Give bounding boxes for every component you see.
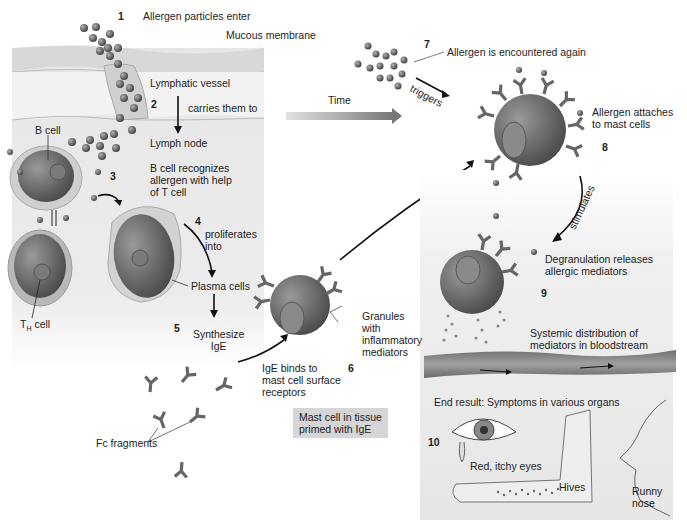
symptom-nose-label: Runny nose <box>632 485 662 509</box>
step-5-text: Synthesize IgE <box>193 328 244 352</box>
step-6-number: 6 <box>348 362 354 374</box>
b-cell-label: B cell <box>35 124 61 136</box>
mast-cell-primed <box>254 266 342 335</box>
systemic-distribution-label: Systemic distribution of mediators in bl… <box>530 327 648 351</box>
step-5-number: 5 <box>174 322 180 334</box>
symptom-eyes-label: Red, itchy eyes <box>470 460 542 472</box>
step-8-text: Allergen attaches to mast cells <box>592 106 673 130</box>
step-2-label: carries them to <box>188 102 257 114</box>
step-6-text: IgE binds to mast cell surface receptors <box>262 362 341 398</box>
th-cell-label: TH cell <box>20 318 50 335</box>
step-9-number: 9 <box>541 287 547 299</box>
step-2-number: 2 <box>151 98 157 110</box>
step-7-number: 7 <box>424 38 430 50</box>
granules-label: Granules with inflammatory mediators <box>362 310 422 358</box>
ige-antibodies <box>144 367 232 478</box>
step-8-number: 8 <box>602 141 608 153</box>
step-4-number: 4 <box>195 215 201 227</box>
lymph-node-label: Lymph node <box>150 137 207 149</box>
plasma-cells-label: Plasma cells <box>191 280 250 292</box>
mast-cell-allergen-bound <box>478 67 584 186</box>
lymphatic-vessel-label: Lymphatic vessel <box>150 77 230 89</box>
step-9-text: Degranulation releases allergic mediator… <box>545 253 653 277</box>
symptom-hives-label: Hives <box>559 481 585 493</box>
time-label: Time <box>328 94 351 106</box>
step-3-number: 3 <box>110 170 116 182</box>
fc-fragments-label: Fc fragments <box>96 437 157 449</box>
mucous-membrane-label: Mucous membrane <box>226 29 316 41</box>
allergen-particles-second <box>355 43 408 90</box>
step-3-text: B cell recognizes allergen with help of … <box>150 162 232 198</box>
time-arrow <box>286 108 402 124</box>
mast-cell-primed-box: Mast cell in tissue primed with IgE <box>293 408 388 438</box>
step-4-text: proliferates into <box>205 228 257 252</box>
step-10-label: End result: Symptoms in various organs <box>434 396 620 408</box>
step-1-number: 1 <box>118 10 124 22</box>
step-1-label: Allergen particles enter <box>143 10 250 22</box>
step-7-label: Allergen is encountered again <box>447 46 586 58</box>
step-10-number: 10 <box>428 436 440 448</box>
